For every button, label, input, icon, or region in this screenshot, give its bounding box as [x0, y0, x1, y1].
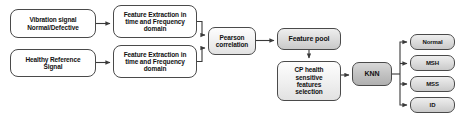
node-feature-pool-label: Feature pool — [289, 35, 330, 43]
node-cp-selection-line-1: CP health — [295, 66, 324, 73]
node-knn-classifier: KNN — [352, 62, 392, 86]
node-output-id-label: ID — [430, 102, 436, 109]
connector-fe-top-to-pearson — [197, 22, 205, 36]
node-feature-pool: Feature pool — [277, 28, 341, 50]
node-feature-extraction-bottom-line-2: time and Frequency — [124, 58, 187, 65]
node-feature-extraction-top-line-1: Feature Extraction in — [124, 11, 187, 18]
node-pearson-correlation: Pearson correlation — [208, 27, 256, 55]
node-pearson-correlation-line-2: correlation — [216, 41, 249, 48]
node-output-msh-label: MSH — [426, 60, 439, 67]
node-knn-label: KNN — [365, 70, 380, 78]
node-feature-extraction-top: Feature Extraction in time and Frequency… — [113, 5, 197, 38]
node-output-normal: Normal — [410, 34, 455, 50]
node-healthy-reference-signal: Healthy Reference Signal — [10, 49, 96, 77]
node-output-id: ID — [410, 97, 455, 113]
node-feature-extraction-bottom: Feature Extraction in time and Frequency… — [113, 45, 197, 78]
node-vibration-signal-line-2: Normal/Defective — [27, 24, 79, 31]
node-feature-extraction-top-line-3: domain — [124, 25, 187, 32]
node-output-normal-label: Normal — [422, 39, 442, 46]
node-cp-health-sensitive-features-selection: CP health sensitive features selection — [277, 61, 341, 101]
node-healthy-reference-line-2: Signal — [25, 63, 80, 70]
node-healthy-reference-line-1: Healthy Reference — [25, 56, 80, 63]
node-cp-selection-line-2: sensitive — [295, 74, 324, 81]
node-feature-extraction-bottom-line-3: domain — [124, 65, 187, 72]
node-cp-selection-line-3: features — [295, 81, 324, 88]
node-output-msh: MSH — [410, 55, 455, 71]
node-output-mss: MSS — [410, 76, 455, 92]
connector-knn-to-output-3 — [400, 74, 407, 105]
node-cp-selection-line-4: selection — [295, 88, 324, 95]
node-feature-extraction-top-line-2: time and Frequency — [124, 18, 187, 25]
node-pearson-correlation-line-1: Pearson — [216, 34, 249, 41]
node-vibration-signal-line-1: Vibration signal — [27, 16, 79, 23]
connector-fe-bottom-to-pearson — [197, 48, 205, 62]
node-feature-extraction-bottom-line-1: Feature Extraction in — [124, 51, 187, 58]
node-output-mss-label: MSS — [426, 81, 439, 88]
connector-knn-to-output-0 — [400, 42, 407, 74]
node-vibration-signal: Vibration signal Normal/Defective — [10, 9, 96, 38]
flowchart-diagram: Vibration signal Normal/Defective Health… — [0, 0, 462, 127]
